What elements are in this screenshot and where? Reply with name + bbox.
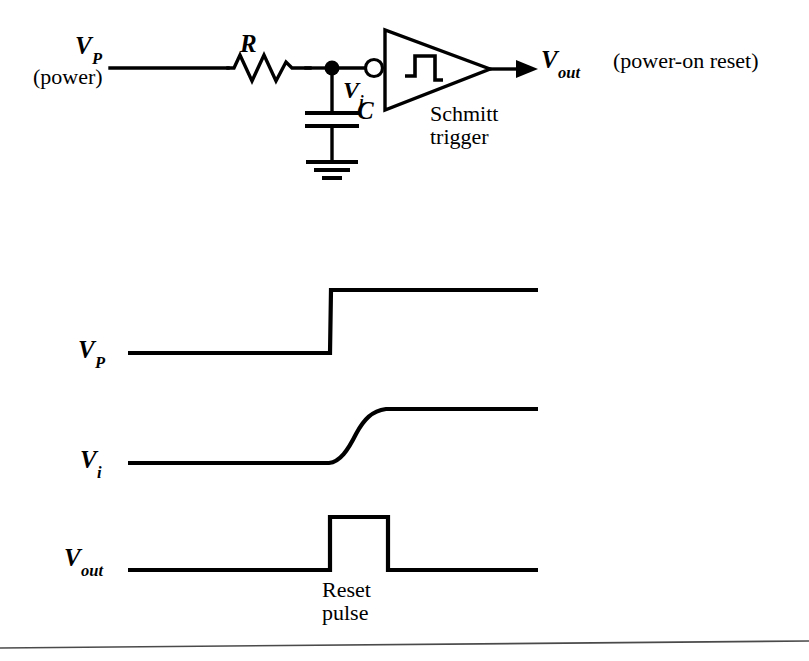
- label-power-note: (power): [33, 65, 103, 88]
- label-waveform-vp: VP: [78, 337, 105, 367]
- label-vout-output: Vout: [541, 47, 580, 77]
- label-capacitor: C: [357, 98, 374, 124]
- label-vout-symbol: V: [541, 46, 558, 73]
- waveform-vout-trace: [128, 517, 538, 570]
- label-schmitt-line1: Schmitt: [430, 102, 498, 125]
- ground-symbol: [306, 162, 358, 178]
- inverting-bubble-icon: [366, 60, 383, 77]
- label-vp-symbol: V: [75, 32, 92, 59]
- label-reset-pulse: Reset pulse: [322, 578, 371, 624]
- footer-rule: [0, 641, 809, 648]
- resistor-symbol: [228, 55, 310, 81]
- label-reset-pulse-line1: Reset: [322, 578, 371, 601]
- waveform-vi-trace: [128, 409, 538, 463]
- label-schmitt-trigger: Schmitt trigger: [430, 102, 498, 148]
- label-resistor-symbol: R: [240, 30, 257, 57]
- label-waveform-vout-subscript: out: [81, 561, 103, 580]
- label-waveform-vout: Vout: [64, 545, 103, 575]
- schmitt-trigger-triangle: [385, 30, 490, 110]
- circuit-and-waveform-drawing: [0, 0, 809, 661]
- label-waveform-vi-subscript: i: [97, 463, 102, 482]
- label-resistor: R: [240, 31, 257, 57]
- waveform-vout: [128, 517, 538, 570]
- label-waveform-vi: Vi: [80, 447, 101, 477]
- label-reset-pulse-line2: pulse: [322, 601, 371, 624]
- waveform-vi: [128, 409, 538, 463]
- label-waveform-vout-symbol: V: [64, 544, 81, 571]
- waveform-vp-trace: [128, 290, 538, 353]
- output-arrowhead-icon: [516, 60, 538, 78]
- label-waveform-vi-symbol: V: [80, 446, 97, 473]
- label-power-on-reset-note: (power-on reset): [613, 49, 759, 72]
- label-waveform-vp-symbol: V: [78, 336, 95, 363]
- label-waveform-vp-subscript: P: [95, 353, 105, 372]
- power-on-reset-figure: VP (power) R Vi C Schmitt trigger Vout (…: [0, 0, 809, 661]
- label-capacitor-symbol: C: [357, 97, 374, 124]
- waveform-vp: [128, 290, 538, 353]
- label-vp-source: VP: [75, 33, 102, 63]
- label-vout-subscript: out: [558, 63, 580, 82]
- label-schmitt-line2: trigger: [430, 125, 498, 148]
